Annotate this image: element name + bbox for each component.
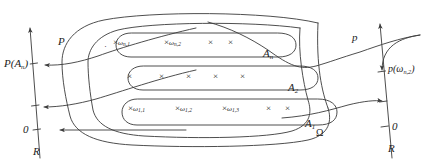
sample-point: ×: [240, 72, 245, 81]
sample-point: ×ω1,1: [128, 104, 145, 114]
diagram-vector-layer: [0, 0, 428, 163]
left-axis-map-label: P: [58, 36, 65, 47]
set-label-An: An: [263, 48, 273, 61]
arrow-p-to-right-axis-upper: [208, 22, 420, 67]
sample-point: ×ω1,3: [222, 104, 239, 114]
left-axis-name-label: R: [33, 146, 40, 157]
right-axis-zero-label: 0: [392, 121, 398, 132]
sample-point: ×: [228, 38, 233, 47]
sample-point: ×: [208, 38, 213, 47]
right-axis-value-label: p(ωn,2): [388, 64, 414, 75]
sample-point: ×: [186, 72, 191, 81]
sample-point: ×ω1,2: [175, 104, 192, 114]
arrow-omega-to-right-axis: [282, 101, 382, 118]
left-axis-tick-mid: [32, 105, 40, 106]
right-axis-tick-zero: [381, 126, 389, 127]
sample-point: ×: [127, 72, 132, 81]
sample-point: ×: [159, 72, 164, 81]
left-axis-line: [30, 28, 40, 158]
left-axis-value-label: P(An): [4, 58, 28, 71]
sample-point: ×ωn,1: [113, 38, 130, 48]
right-axis-map-label: p: [352, 32, 358, 43]
sample-point: ×: [285, 104, 290, 113]
left-axis-tick-pan: [30, 63, 37, 64]
set-label-A2: A2: [288, 82, 298, 95]
right-axis-name-label: R: [388, 143, 395, 154]
sample-point: ×: [266, 104, 271, 113]
figure-canvas: P P(An) 0 R p p(ωn,2) 0 R Ω An A2 A1 · ×…: [0, 0, 428, 163]
omega-label: Ω: [316, 128, 323, 138]
left-axis-tick-zero: [33, 129, 41, 130]
sample-point: ·: [104, 42, 107, 51]
set-label-A1: A1: [305, 118, 315, 131]
left-axis-zero-label: 0: [23, 124, 29, 135]
sample-point: ×ωn,2: [164, 38, 181, 48]
right-axis-line: [380, 24, 392, 158]
sample-point: ×: [213, 72, 218, 81]
